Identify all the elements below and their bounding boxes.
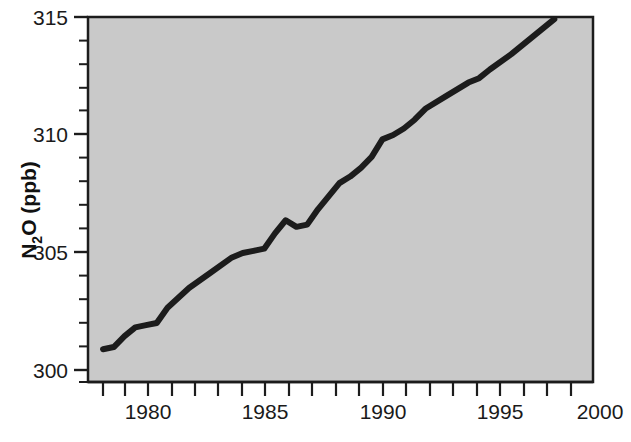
y-axis-title: N2O (ppb) <box>17 161 45 259</box>
y-axis-title-subscript: 2 <box>29 236 45 244</box>
x-axis-label-2000: 2000 <box>577 400 624 423</box>
y-axis-label-315: 315 <box>33 6 68 29</box>
y-axis-title-post: O (ppb) <box>17 161 40 236</box>
y-axis-label-300: 300 <box>33 359 68 382</box>
n2o-time-series-chart: 315 310 305 300 1980 1985 1990 1995 2000… <box>0 0 631 442</box>
x-axis-ticks <box>103 382 571 396</box>
y-axis-title-text: N2O (ppb) <box>17 161 45 259</box>
y-axis-label-310: 310 <box>33 123 68 146</box>
x-axis-label-1990: 1990 <box>360 400 407 423</box>
plot-area-background <box>88 17 593 382</box>
y-axis-minor-ticks <box>79 41 88 382</box>
x-axis-label-1985: 1985 <box>242 400 289 423</box>
y-axis-major-ticks <box>74 17 88 370</box>
figure-container: 315 310 305 300 1980 1985 1990 1995 2000… <box>0 0 631 442</box>
cropped-caption-strip <box>0 428 631 442</box>
y-axis-title-pre: N <box>17 244 40 259</box>
x-axis-label-1995: 1995 <box>477 400 524 423</box>
x-axis-label-1980: 1980 <box>125 400 172 423</box>
